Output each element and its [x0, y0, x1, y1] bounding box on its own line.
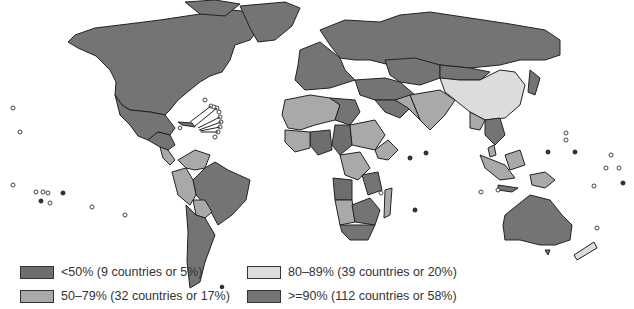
legend-swatch-lt50 [20, 266, 54, 279]
legend-swatch-50-79 [20, 290, 54, 303]
legend-item-50-79: 50–79% (32 countries or 17%) [20, 289, 230, 303]
legend-label-lt50: <50% (9 countries or 5%) [61, 265, 202, 279]
legend-item-gte90: >=90% (112 countries or 58%) [247, 289, 457, 303]
pacific-islands-west [11, 106, 127, 217]
legend-swatch-gte90 [247, 290, 281, 303]
region-oceania [379, 131, 625, 260]
legend-swatch-80-89 [247, 266, 281, 279]
legend-label-80-89: 80–89% (39 countries or 20%) [288, 265, 457, 279]
world-map [0, 0, 634, 309]
legend-item-lt50: <50% (9 countries or 5%) [20, 265, 202, 279]
region-africa [282, 95, 398, 240]
legend-label-gte90: >=90% (112 countries or 58%) [288, 289, 457, 303]
legend-item-80-89: 80–89% (39 countries or 20%) [247, 265, 457, 279]
region-north-america [68, 0, 262, 140]
legend-label-50-79: 50–79% (32 countries or 17%) [61, 289, 230, 303]
